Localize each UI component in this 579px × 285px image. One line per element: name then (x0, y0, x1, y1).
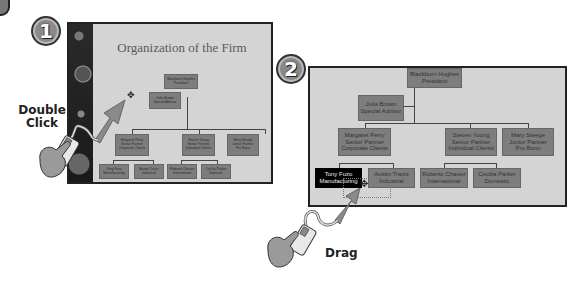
illustration-overlay (0, 0, 579, 285)
hand-on-mouse-icon-step-2 (268, 224, 317, 267)
hand-on-mouse-icon-step-1 (40, 135, 80, 177)
arrow-step-1-icon (95, 100, 125, 143)
arrow-step-2-icon (335, 188, 360, 224)
